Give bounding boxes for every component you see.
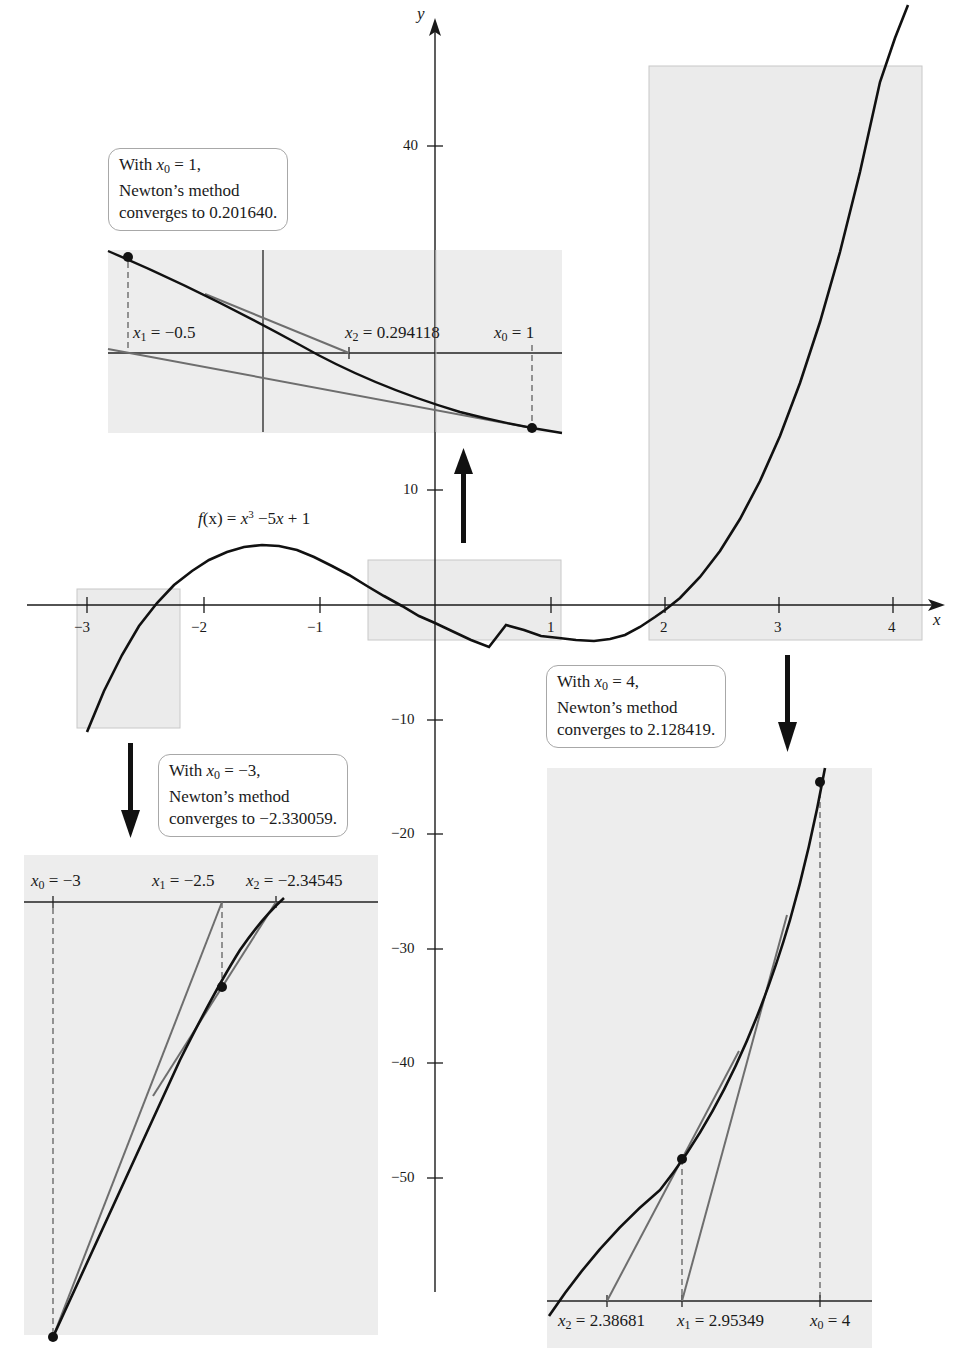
y-axis-label: y bbox=[417, 4, 425, 24]
callout-text: = −3, bbox=[220, 761, 260, 780]
callout-text: Newton’s method bbox=[169, 786, 337, 808]
inset-left-bg bbox=[24, 855, 378, 1335]
callout-var: x bbox=[595, 672, 603, 691]
y-tick-label: −10 bbox=[391, 711, 414, 728]
y-tick-label: −30 bbox=[391, 940, 414, 957]
y-tick-label: −20 bbox=[391, 825, 414, 842]
y-tick-label: 40 bbox=[403, 137, 418, 154]
iterate-point bbox=[48, 1332, 58, 1342]
zoom-box-left bbox=[77, 589, 180, 728]
function-label: f(x) = x3 −5x + 1 bbox=[198, 508, 310, 529]
x-tick-label: −1 bbox=[307, 619, 323, 636]
callout-left: With x0 = −3, Newton’s method converges … bbox=[158, 754, 348, 837]
function-label-part: (x) = bbox=[203, 509, 241, 528]
iterate-label-x1: x1 = −2.5 bbox=[152, 871, 214, 893]
function-label-part: −5 bbox=[254, 509, 276, 528]
callout-top: With x0 = 1, Newton’s method converges t… bbox=[108, 148, 288, 231]
callout-text: = 4, bbox=[608, 672, 639, 691]
iterate-point bbox=[677, 1154, 687, 1164]
iterate-point bbox=[527, 423, 537, 433]
iterate-point bbox=[123, 252, 133, 262]
arrow-up-icon bbox=[454, 448, 473, 543]
callout-result: converges to 2.128419. bbox=[557, 719, 715, 741]
callout-var: x bbox=[207, 761, 215, 780]
inset-right-bg bbox=[547, 768, 872, 1348]
x-axis-label: x bbox=[933, 610, 941, 630]
zoom-box-right bbox=[649, 66, 922, 640]
iterate-label-x0: x0 = −3 bbox=[31, 871, 81, 893]
function-label-part: + 1 bbox=[284, 509, 311, 528]
callout-result: converges to 0.201640. bbox=[119, 202, 277, 224]
y-tick-label: 10 bbox=[403, 481, 418, 498]
arrow-down-left-icon bbox=[121, 743, 140, 838]
x-tick-label: −3 bbox=[74, 619, 90, 636]
iterate-point bbox=[217, 982, 227, 992]
x-tick-label: 2 bbox=[660, 619, 668, 636]
x-tick-label: −2 bbox=[191, 619, 207, 636]
callout-text: Newton’s method bbox=[119, 180, 277, 202]
callout-var: x bbox=[157, 155, 165, 174]
iterate-point bbox=[815, 777, 825, 787]
y-tick-label: −40 bbox=[391, 1054, 414, 1071]
callout-right: With x0 = 4, Newton’s method converges t… bbox=[546, 665, 726, 748]
x-tick-label: 4 bbox=[888, 619, 896, 636]
x-tick-label: 1 bbox=[547, 619, 555, 636]
callout-text: With bbox=[557, 672, 595, 691]
callout-text: With bbox=[119, 155, 157, 174]
iterate-label-x0: x0 = 1 bbox=[494, 323, 534, 345]
callout-result: converges to −2.330059. bbox=[169, 808, 337, 830]
x-tick-label: 3 bbox=[774, 619, 782, 636]
callout-text: = 1, bbox=[170, 155, 201, 174]
y-tick-label: −50 bbox=[391, 1169, 414, 1186]
zoom-box-center bbox=[368, 560, 561, 640]
iterate-label-x2: x2 = 0.294118 bbox=[345, 323, 440, 345]
iterate-label-x1: x1 = 2.95349 bbox=[677, 1311, 764, 1333]
function-label-part: x bbox=[276, 509, 284, 528]
callout-text: With bbox=[169, 761, 207, 780]
iterate-label-x2: x2 = −2.34545 bbox=[246, 871, 342, 893]
iterate-label-x0: x0 = 4 bbox=[810, 1311, 850, 1333]
arrow-down-right-icon bbox=[778, 655, 797, 752]
iterate-label-x2: x2 = 2.38681 bbox=[558, 1311, 645, 1333]
callout-text: Newton’s method bbox=[557, 697, 715, 719]
iterate-label-x1: x1 = −0.5 bbox=[133, 323, 195, 345]
